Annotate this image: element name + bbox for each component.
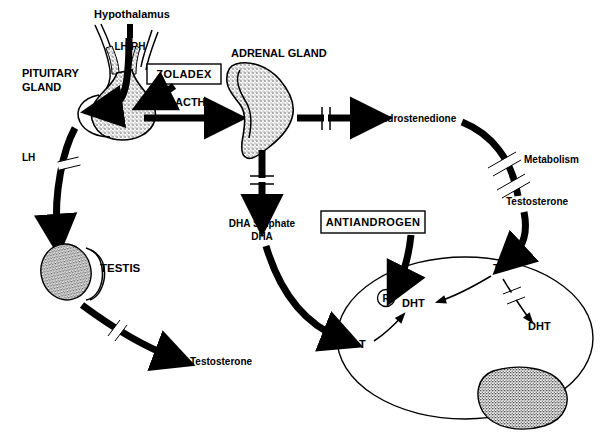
cell-dht-blockade-mark (503, 287, 525, 304)
pituitary-stalk-outline-left (95, 25, 110, 93)
diagram-canvas: Hypothalamus LH-RH PITUITARY GLAND ZOLAD… (0, 0, 616, 439)
cell-t-left-label: T (359, 338, 366, 350)
cell-t-top-label: T (493, 262, 500, 274)
testis-shape (36, 239, 97, 304)
dha-sulphate-label: DHA Sulphate (229, 218, 296, 229)
acth-label: ACTH (175, 96, 206, 108)
zoladex-arrow (154, 86, 174, 99)
endocrine-pathway-diagram: Hypothalamus LH-RH PITUITARY GLAND ZOLAD… (0, 0, 616, 439)
antiandrogen-label: ANTIANDROGEN (326, 216, 421, 228)
testosterone-into-cell-arrow (511, 212, 525, 258)
dha-label: DHA (251, 231, 273, 242)
pituitary-gland-label-line1: PITUITARY (22, 67, 79, 79)
cell-nucleus (478, 367, 567, 429)
receptor-label: R (382, 293, 390, 304)
hypothalamus-label: Hypothalamus (94, 8, 170, 20)
testis-testosterone-arrow (82, 305, 172, 357)
lh-label: LH (22, 152, 35, 163)
cell-t-to-dht-centre-arrow (437, 276, 491, 302)
cell-dht-left-label: DHT (402, 297, 425, 309)
adrenal-gland-shape (227, 63, 294, 159)
metabolism-label: Metabolism (524, 154, 579, 165)
zoladex-label: ZOLADEX (156, 68, 212, 80)
dha-blockade-gap (250, 178, 275, 182)
lh-arrow (56, 128, 75, 232)
testis-label: TESTIS (100, 262, 141, 274)
lhrh-stem-top (127, 24, 133, 38)
antiandrogen-arrow (398, 235, 411, 284)
testosterone-testis-label: Testosterone (190, 356, 252, 367)
testosterone-metabolism-label: Testosterone (506, 196, 568, 207)
androstenedione-label: Androstenedione (374, 113, 457, 124)
pituitary-gland-label-line2: GLAND (22, 81, 61, 93)
adrenal-gland-label: ADRENAL GLAND (231, 47, 327, 59)
androstenedione-blockade-gap (324, 106, 328, 131)
cell-t-to-dht-left-arrow (374, 314, 404, 341)
dha-to-cell-arrow (266, 246, 340, 338)
